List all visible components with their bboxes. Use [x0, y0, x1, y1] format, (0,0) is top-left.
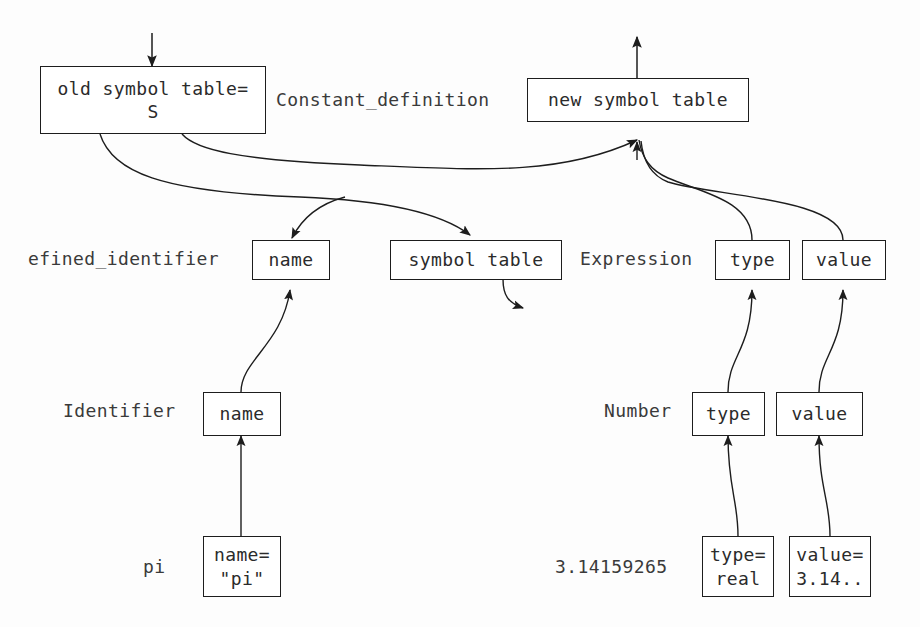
node-expression-type[interactable]: type: [715, 240, 790, 280]
label-defined-identifier: efined_identifier: [28, 248, 219, 269]
diagram-canvas: old symbol table= S Constant_definition …: [0, 0, 920, 627]
edge-old-symbol-table-to-name: [182, 134, 637, 169]
edge-symbol-table-out: [503, 279, 523, 308]
edge-type-leaf-to-number-type: [728, 436, 738, 536]
node-number-type[interactable]: type: [692, 392, 765, 436]
node-new-symbol-table[interactable]: new symbol table: [527, 78, 749, 122]
label-constant-definition: Constant_definition: [276, 89, 490, 110]
label-expression: Expression: [580, 248, 692, 269]
edge-number-type-to-expression-type: [728, 290, 752, 392]
node-symbol-table[interactable]: symbol table: [390, 240, 562, 280]
label-identifier: Identifier: [63, 400, 175, 421]
edge-number-value-to-expression-value: [819, 290, 843, 392]
node-pi-name-leaf[interactable]: name= "pi": [203, 536, 281, 597]
node-number-value-leaf[interactable]: value= 3.14..: [789, 536, 871, 597]
label-number: Number: [604, 400, 671, 421]
label-pi: pi: [143, 556, 165, 577]
label-pi-value: 3.14159265: [555, 556, 667, 577]
node-expression-value[interactable]: value: [802, 240, 886, 280]
node-defined-identifier-name[interactable]: name: [252, 240, 330, 280]
edge-expression-type-to-new-symbol-table: [639, 140, 752, 240]
node-old-symbol-table[interactable]: old symbol table= S: [40, 66, 266, 134]
edge-old-symbol-table-to-symbol-table: [100, 134, 470, 235]
edge-cross-to-name-box: [292, 197, 345, 238]
edge-expression-value-to-new-symbol-table: [641, 141, 843, 240]
node-number-value[interactable]: value: [776, 392, 863, 436]
edge-identifier-name-to-name: [241, 290, 290, 392]
node-number-type-leaf[interactable]: type= real: [702, 536, 774, 597]
node-identifier-name[interactable]: name: [203, 392, 281, 436]
edge-value-leaf-to-number-value: [819, 436, 830, 536]
